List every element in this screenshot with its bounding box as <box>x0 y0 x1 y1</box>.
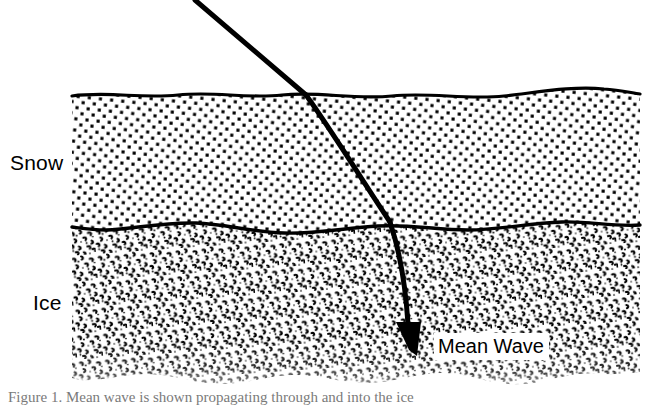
mean-wave-label: Mean Wave <box>434 333 549 360</box>
figure-caption: Figure 1. Mean wave is shown propagating… <box>8 392 414 406</box>
snow-ice-diagram <box>0 0 652 406</box>
snow-layer-label: Snow <box>10 152 63 173</box>
snow-layer <box>60 80 652 245</box>
ice-layer <box>60 220 652 390</box>
ice-layer-label: Ice <box>33 292 62 313</box>
figure-caption-clip: Figure 1. Mean wave is shown propagating… <box>0 392 652 406</box>
figure-root: Snow Ice Mean Wave Figure 1. Mean wave i… <box>0 0 652 406</box>
